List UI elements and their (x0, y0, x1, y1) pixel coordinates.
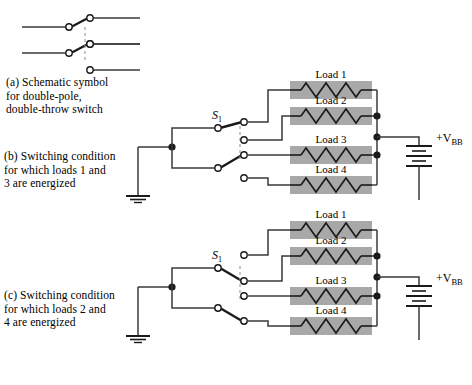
part-a-dpdt-symbol (22, 15, 140, 73)
figure-canvas: (a) Schematic symbol for double-pole, do… (0, 0, 472, 385)
c-switch-blade-lower (220, 308, 242, 321)
c-load3-label: Load 3 (296, 274, 366, 286)
caption-part-b: (b) Switching condition for which loads … (4, 150, 164, 191)
c-bus-dot-load2 (373, 252, 380, 259)
c-throw-load1 (241, 252, 247, 258)
b-branch-upper-pole (172, 128, 217, 147)
b-lead-to-load1 (248, 90, 290, 122)
c-load4-label: Load 4 (296, 304, 366, 316)
c-load1-label: Load 1 (296, 208, 366, 220)
c-load2-label: Load 2 (296, 234, 366, 246)
b-pivot-lower (215, 165, 221, 171)
b-load3-label: Load 3 (296, 133, 366, 145)
b-pivot-upper (215, 125, 221, 131)
c-bus-dot-load3 (373, 292, 380, 299)
b-throw-load4 (241, 175, 247, 181)
part-c-circuit (126, 221, 432, 343)
b-switch-blade-lower (220, 155, 242, 168)
b-lead-to-load2 (248, 116, 290, 140)
c-lead-to-load4 (248, 321, 290, 326)
c-switch-blade-upper (220, 268, 242, 281)
b-supply-label: +VBB (436, 131, 463, 147)
b-throw-load1 (241, 119, 247, 125)
c-branch-upper-pole (172, 268, 217, 287)
c-pivot-lower (215, 305, 221, 311)
b-branch-lower-pole (172, 147, 217, 168)
b-supply-lead (377, 137, 419, 146)
c-pivot-upper (215, 265, 221, 271)
b-bus-dot-load3 (373, 151, 380, 158)
part-b-circuit (126, 81, 432, 203)
b-load1-label: Load 1 (296, 68, 366, 80)
b-load4-label: Load 4 (296, 163, 366, 175)
terminal-throw-a4 (87, 67, 93, 73)
b-switch-blade-upper (220, 122, 242, 128)
terminal-throw-a1 (87, 15, 93, 21)
c-throw-load2 (241, 278, 247, 284)
c-throw-load4 (241, 318, 247, 324)
c-supply-lead (377, 277, 419, 286)
terminal-pivot-lower (66, 50, 72, 56)
b-throw-load3 (241, 152, 247, 158)
c-switch-label: S1 (212, 248, 222, 264)
c-supply-label: +VBB (436, 271, 463, 287)
c-throw-load3 (241, 293, 247, 299)
blade-upper (71, 18, 88, 27)
caption-part-a: (a) Schematic symbol for double-pole, do… (6, 76, 156, 117)
c-lead-to-load2 (248, 256, 290, 281)
terminal-pivot-upper (66, 24, 72, 30)
caption-part-c: (c) Switching condition for which loads … (4, 289, 164, 330)
c-branch-lower-pole (172, 287, 217, 308)
terminal-throw-a3 (87, 41, 93, 47)
b-throw-load2 (241, 137, 247, 143)
b-bus-dot-load2 (373, 112, 380, 119)
b-load2-label: Load 2 (296, 94, 366, 106)
b-lead-to-load4 (248, 178, 290, 185)
c-lead-to-load1 (248, 230, 290, 255)
b-switch-label: S1 (212, 108, 222, 124)
